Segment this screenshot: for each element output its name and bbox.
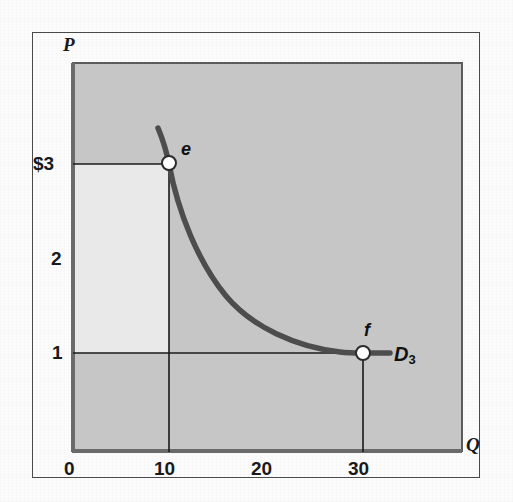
y-tick-label-1: 1 <box>52 342 63 364</box>
x-tick-label-0: 0 <box>64 458 75 480</box>
x-axis-title: Q <box>466 434 480 456</box>
y-axis-title: P <box>63 34 75 56</box>
y-tick-label-3: $3 <box>33 153 54 175</box>
curve-label-letter: D <box>394 343 408 365</box>
chart-canvas <box>0 0 513 502</box>
curve-label-subscript: 3 <box>408 352 415 367</box>
x-tick-label-30: 30 <box>348 458 369 480</box>
point-marker-e <box>162 156 176 170</box>
point-marker-f <box>356 346 370 360</box>
point-label-e: e <box>181 139 191 160</box>
curve-label-d3: D3 <box>394 343 416 367</box>
y-tick-label-2: 2 <box>51 248 62 270</box>
x-tick-label-20: 20 <box>251 458 272 480</box>
revenue-rectangle-highlight <box>73 164 169 353</box>
demand-curve-figure: P Q $3 2 1 0 10 20 30 e f D3 <box>0 0 513 502</box>
point-label-f: f <box>364 320 370 341</box>
x-tick-label-10: 10 <box>154 458 175 480</box>
